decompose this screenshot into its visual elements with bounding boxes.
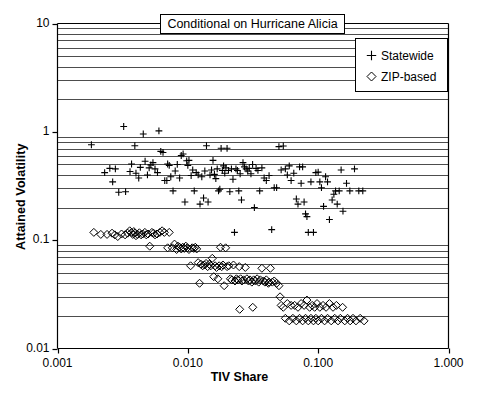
legend-item-statewide: Statewide: [363, 45, 447, 66]
data-point-plus: [310, 229, 317, 236]
data-point-plus: [284, 172, 291, 179]
data-point-diamond: [309, 317, 317, 325]
data-point-diamond: [187, 262, 195, 270]
data-point-plus: [128, 161, 135, 168]
data-point-plus: [231, 229, 238, 236]
data-point-plus: [224, 145, 231, 152]
data-point-plus: [268, 226, 275, 233]
data-point-plus: [326, 216, 333, 223]
data-point-plus: [198, 173, 205, 180]
data-point-plus: [164, 161, 171, 168]
data-point-plus: [334, 201, 341, 208]
data-point-plus: [146, 164, 153, 171]
data-point-plus: [295, 201, 302, 208]
x-axis-title: TIV Share: [0, 370, 479, 384]
data-point-plus: [142, 158, 149, 165]
data-point-diamond: [304, 317, 312, 325]
data-point-plus: [131, 142, 138, 149]
x-tick-label: 1.000: [409, 356, 479, 370]
data-point-plus: [210, 157, 217, 164]
data-point-plus: [276, 143, 283, 150]
x-tick-label: 0.001: [18, 356, 98, 370]
data-point-diamond: [346, 317, 354, 325]
data-point-plus: [230, 176, 237, 183]
data-point-plus: [318, 184, 325, 191]
data-point-plus: [140, 131, 147, 138]
data-point-plus: [182, 199, 189, 206]
scatter-plot-figure: Attained Volatility TIV Share 0.010.1110…: [0, 0, 479, 402]
data-point-plus: [200, 195, 207, 202]
y-tick-label: 10: [8, 16, 50, 30]
x-tick-label: 0.010: [148, 356, 228, 370]
data-point-plus: [166, 162, 173, 169]
y-tick-label: 0.1: [8, 232, 50, 246]
data-point-plus: [293, 196, 300, 203]
data-point-plus: [109, 179, 116, 186]
data-point-diamond: [276, 293, 284, 301]
data-point-plus: [330, 191, 337, 198]
data-point-plus: [288, 177, 295, 184]
data-point-plus: [226, 188, 233, 195]
data-point-plus: [212, 175, 219, 182]
data-point-diamond: [165, 228, 173, 236]
data-point-diamond: [146, 242, 154, 250]
legend-label-zip-based: ZIP-based: [381, 70, 436, 84]
data-point-plus: [203, 142, 210, 149]
data-point-plus: [233, 165, 240, 172]
data-point-plus: [127, 168, 134, 175]
legend-item-zip-based: ZIP-based: [363, 66, 447, 87]
data-point-plus: [207, 172, 214, 179]
data-point-plus: [343, 180, 350, 187]
data-point-plus: [174, 161, 181, 168]
data-point-plus: [298, 180, 305, 187]
data-point-diamond: [249, 303, 257, 311]
data-point-plus: [282, 165, 289, 172]
data-point-plus: [216, 186, 223, 193]
y-tick-label: 1: [8, 124, 50, 138]
data-point-diamond: [302, 314, 310, 322]
data-point-plus: [205, 199, 212, 206]
data-point-plus: [316, 179, 323, 186]
data-point-plus: [201, 168, 208, 175]
data-point-plus: [218, 145, 225, 152]
x-tick-label: 0.100: [278, 356, 358, 370]
data-point-plus: [167, 173, 174, 180]
data-point-plus: [156, 128, 163, 135]
data-point-plus: [172, 168, 179, 175]
data-point-plus: [240, 159, 247, 166]
data-point-plus: [351, 165, 358, 172]
figure-caption: [0, 392, 479, 402]
data-point-plus: [251, 204, 258, 211]
data-point-plus: [308, 179, 315, 186]
series-zip-based: [90, 227, 368, 325]
data-point-plus: [137, 164, 144, 171]
data-point-plus: [280, 143, 287, 150]
data-point-diamond: [258, 264, 266, 272]
legend: Statewide ZIP-based: [355, 38, 448, 92]
data-point-plus: [120, 123, 127, 130]
data-point-plus: [184, 162, 191, 169]
data-point-diamond: [266, 264, 274, 272]
legend-label-statewide: Statewide: [381, 49, 434, 63]
plus-marker-icon: [363, 50, 379, 61]
data-point-diamond: [220, 282, 228, 290]
y-tick-label: 0.01: [8, 341, 50, 355]
data-point-plus: [122, 188, 129, 195]
data-point-plus: [197, 201, 204, 208]
data-point-plus: [144, 172, 151, 179]
data-point-plus: [301, 199, 308, 206]
data-point-plus: [286, 162, 293, 169]
data-point-plus: [338, 167, 345, 174]
data-point-diamond: [236, 305, 244, 313]
data-point-diamond: [90, 228, 98, 236]
chart-title-box: Conditional on Hurricane Alicia: [160, 14, 345, 34]
chart-title: Conditional on Hurricane Alicia: [167, 18, 337, 31]
data-point-diamond: [312, 314, 320, 322]
data-point-plus: [115, 189, 122, 196]
data-point-plus: [249, 161, 256, 168]
data-point-plus: [278, 167, 285, 174]
data-point-plus: [112, 165, 119, 172]
data-point-plus: [101, 169, 108, 176]
data-point-plus: [329, 197, 336, 204]
series-statewide: [88, 123, 366, 236]
